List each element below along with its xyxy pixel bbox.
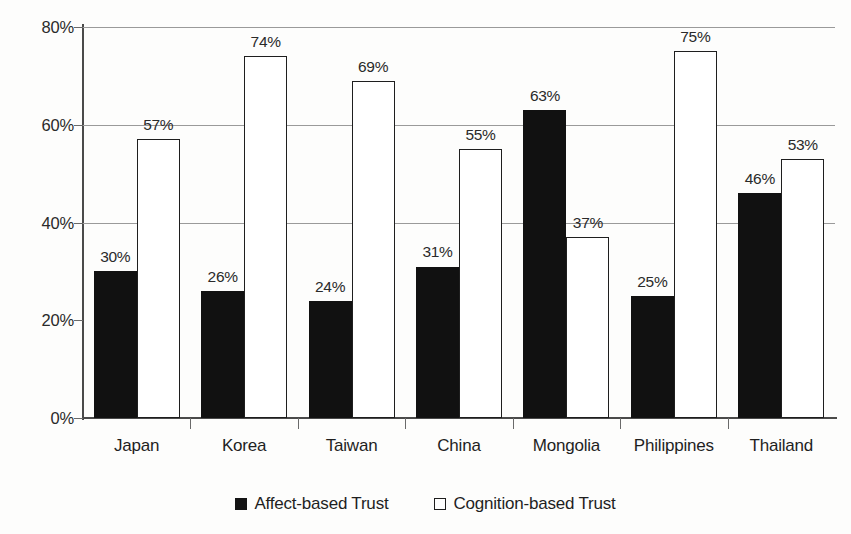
y-axis-tick-80 bbox=[74, 27, 83, 28]
y-axis-label-60: 60% bbox=[0, 115, 74, 134]
bar-philippines-cognition bbox=[674, 51, 717, 418]
x-axis-label-china: China bbox=[437, 436, 480, 456]
bar-korea-cognition bbox=[244, 56, 287, 418]
x-axis-label-mongolia: Mongolia bbox=[533, 436, 600, 456]
bar-value-label-japan-affect: 30% bbox=[100, 248, 130, 266]
bar-chart: 80% 60% 40% 20% 0% 30%57%26%74%24%69%31%… bbox=[0, 0, 851, 534]
bar-china-cognition bbox=[459, 149, 502, 418]
bar-taiwan-cognition bbox=[352, 81, 395, 418]
plot-area: 30%57%26%74%24%69%31%55%63%37%25%75%46%5… bbox=[83, 27, 835, 418]
bar-china-affect bbox=[416, 267, 459, 419]
bar-value-label-thailand-affect: 46% bbox=[745, 170, 775, 188]
bar-japan-affect bbox=[94, 271, 137, 418]
bar-philippines-affect bbox=[631, 296, 674, 418]
x-axis-label-philippines: Philippines bbox=[634, 436, 714, 456]
bar-taiwan-affect bbox=[309, 301, 352, 418]
chart-legend: Affect-based Trust Cognition-based Trust bbox=[0, 494, 851, 514]
bar-value-label-taiwan-affect: 24% bbox=[315, 278, 345, 296]
bar-thailand-cognition bbox=[781, 159, 824, 418]
y-axis-tick-40 bbox=[74, 223, 83, 224]
y-axis-label-80: 80% bbox=[0, 18, 74, 37]
bar-korea-affect bbox=[201, 291, 244, 418]
x-axis-tick-5 bbox=[620, 418, 621, 429]
gridline-80 bbox=[83, 27, 835, 28]
y-axis-labels: 80% 60% 40% 20% 0% bbox=[0, 27, 74, 418]
x-axis-tick-4 bbox=[513, 418, 514, 429]
legend-item-affect-based-trust: Affect-based Trust bbox=[235, 494, 388, 514]
x-axis-label-korea: Korea bbox=[222, 436, 266, 456]
bar-value-label-philippines-affect: 25% bbox=[637, 273, 667, 291]
bar-value-label-korea-affect: 26% bbox=[208, 268, 238, 286]
legend-label-affect-based-trust: Affect-based Trust bbox=[254, 494, 388, 514]
gridline-60 bbox=[83, 125, 835, 126]
legend-swatch-hollow-icon bbox=[434, 498, 446, 510]
bar-value-label-mongolia-cognition: 37% bbox=[573, 214, 603, 232]
x-axis-tick-3 bbox=[405, 418, 406, 429]
y-axis-tick-0 bbox=[74, 418, 83, 419]
x-axis-label-thailand: Thailand bbox=[749, 436, 813, 456]
bar-value-label-japan-cognition: 57% bbox=[143, 116, 173, 134]
x-axis-tick-6 bbox=[728, 418, 729, 429]
x-axis-label-taiwan: Taiwan bbox=[326, 436, 378, 456]
bar-value-label-china-affect: 31% bbox=[422, 243, 452, 261]
bar-value-label-china-cognition: 55% bbox=[465, 126, 495, 144]
bar-japan-cognition bbox=[137, 139, 180, 418]
legend-item-cognition-based-trust: Cognition-based Trust bbox=[434, 494, 615, 514]
y-axis-tick-60 bbox=[74, 125, 83, 126]
x-axis-tick-1 bbox=[190, 418, 191, 429]
bar-value-label-thailand-cognition: 53% bbox=[788, 136, 818, 154]
y-axis-label-20: 20% bbox=[0, 311, 74, 330]
bar-value-label-philippines-cognition: 75% bbox=[680, 28, 710, 46]
bar-mongolia-cognition bbox=[566, 237, 609, 418]
x-axis-tick-2 bbox=[298, 418, 299, 429]
legend-label-cognition-based-trust: Cognition-based Trust bbox=[453, 494, 615, 514]
y-axis-label-0: 0% bbox=[0, 409, 74, 428]
legend-swatch-filled-icon bbox=[235, 498, 247, 510]
x-axis-label-japan: Japan bbox=[114, 436, 159, 456]
bar-value-label-mongolia-affect: 63% bbox=[530, 87, 560, 105]
bar-value-label-taiwan-cognition: 69% bbox=[358, 58, 388, 76]
y-axis-label-40: 40% bbox=[0, 213, 74, 232]
bar-mongolia-affect bbox=[523, 110, 566, 418]
bar-value-label-korea-cognition: 74% bbox=[251, 33, 281, 51]
y-axis-tick-20 bbox=[74, 320, 83, 321]
bar-thailand-affect bbox=[738, 193, 781, 418]
